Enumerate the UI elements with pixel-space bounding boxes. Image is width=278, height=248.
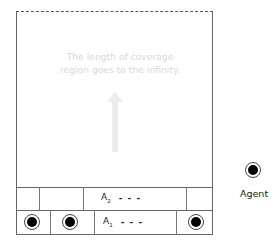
row-a2-dashes: - - - <box>119 193 141 203</box>
coverage-region-open-top <box>16 11 213 12</box>
row-a2-name: A2 <box>101 192 111 204</box>
agent-icon <box>24 214 40 230</box>
row-a1-bottom-border <box>16 234 213 235</box>
row-a2-label: A2 - - - <box>101 192 141 204</box>
row-a1-divider <box>50 210 51 234</box>
row-a1-label: A1 - - - <box>103 216 143 228</box>
coverage-text-line-2: region goes to the infinity. <box>40 63 200 76</box>
legend-agent-label: Agent <box>240 188 268 199</box>
row-a1-divider <box>176 210 177 234</box>
coverage-left-border <box>16 12 17 235</box>
coverage-right-border <box>212 11 213 235</box>
row-a2-divider <box>83 187 84 210</box>
coverage-text-line-1: The length of coverage <box>40 50 200 63</box>
agent-icon <box>188 214 204 230</box>
agent-icon <box>62 214 78 230</box>
row-a2-divider <box>39 187 40 210</box>
row-a2-top-border <box>16 187 213 188</box>
legend-agent-icon <box>245 162 261 178</box>
coverage-description: The length of coverage region goes to th… <box>40 50 200 76</box>
row-a1-divider <box>94 210 95 234</box>
row-a1-dashes: - - - <box>121 217 143 227</box>
row-a2-divider <box>186 187 187 210</box>
row-a1-top-border <box>16 210 213 211</box>
arrow-up-icon <box>107 92 123 152</box>
row-a1-name: A1 <box>103 216 113 228</box>
